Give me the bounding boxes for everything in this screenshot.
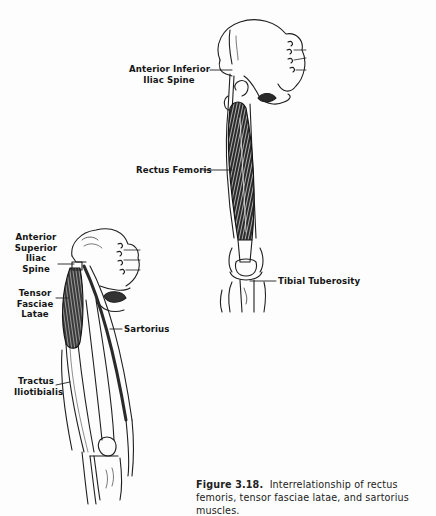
label-line: Tractus [14,376,58,387]
label-line: Iliac [14,253,58,264]
label-line: Tensor [14,288,56,299]
label-line: Anterior Inferior [128,64,210,75]
label-tractus-iliotibialis: Tractus Iliotibialis [14,376,58,397]
label-tensor-fasciae-latae: Tensor Fasciae Latae [14,288,56,320]
figure-caption: Figure 3.18. Interrelationship of rectus… [196,478,432,516]
label-line: Fasciae [14,299,56,310]
label-line: Latae [14,309,56,320]
label-rectus-femoris: Rectus Femoris [136,165,212,176]
textbook-page: Anterior Inferior Iliac Spine Rectus Fem… [0,0,436,516]
figure-number: Figure 3.18. [196,479,263,490]
label-line: Spine [14,264,58,275]
label-line: Superior [14,243,58,254]
label-anterior-superior-iliac-spine: Anterior Superior Iliac Spine [14,232,58,274]
label-line: Anterior [14,232,58,243]
label-anterior-inferior-iliac-spine: Anterior Inferior Iliac Spine [128,64,210,85]
anatomy-illustrations [0,0,436,516]
upper-figure-rectus-femoris [203,20,306,312]
label-line: Iliotibialis [14,387,58,398]
label-line: Iliac Spine [128,75,210,86]
lower-figure-tfl-sartorius [56,229,140,504]
label-sartorius: Sartorius [124,324,170,335]
label-tibial-tuberosity: Tibial Tuberosity [278,276,360,287]
